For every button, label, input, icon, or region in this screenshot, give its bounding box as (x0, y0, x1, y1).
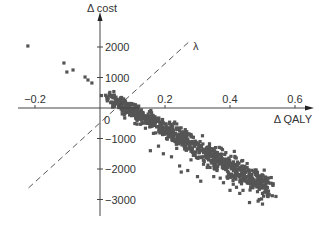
data-point (232, 183, 235, 186)
data-point (206, 166, 209, 169)
x-tick-label: 0.2 (157, 93, 172, 105)
data-point (201, 142, 204, 145)
data-point (202, 163, 205, 166)
data-point (228, 189, 231, 192)
data-point (151, 124, 154, 127)
data-point (230, 172, 233, 175)
data-point (175, 147, 178, 150)
data-point (203, 160, 206, 163)
data-point (182, 134, 185, 137)
data-point (114, 96, 117, 99)
data-point (198, 149, 201, 152)
data-point (212, 153, 215, 156)
data-point (71, 68, 74, 71)
data-point (218, 162, 221, 165)
x-axis-arrow-icon (305, 106, 314, 111)
cost-effectiveness-plane: λ −0.20.20.40.6 20001000−1000−2000−3000 … (0, 0, 327, 228)
data-point (246, 162, 249, 165)
data-point (83, 75, 86, 78)
data-point (199, 180, 202, 183)
data-point (248, 178, 251, 181)
data-point (256, 190, 259, 193)
data-point (215, 169, 218, 172)
data-point (240, 159, 243, 162)
x-tick-label: −0.2 (24, 93, 46, 105)
data-point (176, 134, 179, 137)
data-point (212, 175, 215, 178)
data-point (125, 109, 128, 112)
data-point (62, 61, 65, 64)
data-point (113, 105, 116, 108)
data-point (26, 44, 29, 47)
y-tick-label: −1000 (105, 133, 136, 145)
data-point (140, 108, 143, 111)
data-point (189, 158, 192, 161)
data-point (86, 78, 89, 81)
data-point (183, 144, 186, 147)
data-point (229, 155, 232, 158)
data-point (147, 115, 150, 118)
data-point (207, 158, 210, 161)
data-point (271, 184, 274, 187)
data-point (264, 187, 267, 190)
data-point (218, 146, 221, 149)
data-point (166, 138, 169, 141)
data-point (201, 148, 204, 151)
data-point (241, 189, 244, 192)
data-point (225, 175, 228, 178)
data-point (238, 192, 241, 195)
data-point (155, 118, 158, 121)
data-point (208, 166, 211, 169)
data-point (188, 132, 191, 135)
data-point (212, 147, 215, 150)
data-point (258, 198, 261, 201)
data-point (231, 179, 234, 182)
data-point (236, 162, 239, 165)
data-point (263, 169, 266, 172)
data-point (240, 181, 243, 184)
data-point (253, 170, 256, 173)
data-point (135, 119, 138, 122)
x-tick-label: 0.4 (222, 93, 237, 105)
y-tick-label: 2000 (105, 41, 129, 53)
data-point (270, 176, 273, 179)
data-point (90, 81, 93, 84)
data-point (123, 116, 126, 119)
y-tick-label: 1000 (105, 72, 129, 84)
data-point (180, 130, 183, 133)
data-point (144, 127, 147, 130)
data-point (161, 118, 164, 121)
data-point (219, 177, 222, 180)
data-point (193, 140, 196, 143)
data-point (152, 121, 155, 124)
data-point (212, 160, 215, 163)
data-point (221, 162, 224, 165)
data-point (173, 120, 176, 123)
data-point (174, 127, 177, 130)
data-point (233, 150, 236, 153)
data-point (152, 132, 155, 135)
data-point (240, 168, 243, 171)
data-point (264, 182, 267, 185)
data-point (159, 125, 162, 128)
threshold-label: λ (193, 40, 199, 52)
data-point (255, 174, 258, 177)
data-point (267, 181, 270, 184)
data-point (177, 141, 180, 144)
data-point (157, 145, 160, 148)
data-point (137, 104, 140, 107)
data-point (166, 134, 169, 137)
data-point (254, 184, 257, 187)
y-tick-label: −2000 (105, 163, 136, 175)
data-point (228, 160, 231, 163)
data-point (136, 123, 139, 126)
data-point (132, 103, 135, 106)
data-point (253, 178, 256, 181)
data-point (233, 168, 236, 171)
data-point (180, 126, 183, 129)
data-point (262, 195, 265, 198)
data-point (143, 121, 146, 124)
data-point (171, 124, 174, 127)
data-point (130, 114, 133, 117)
scatter-points (26, 44, 277, 205)
